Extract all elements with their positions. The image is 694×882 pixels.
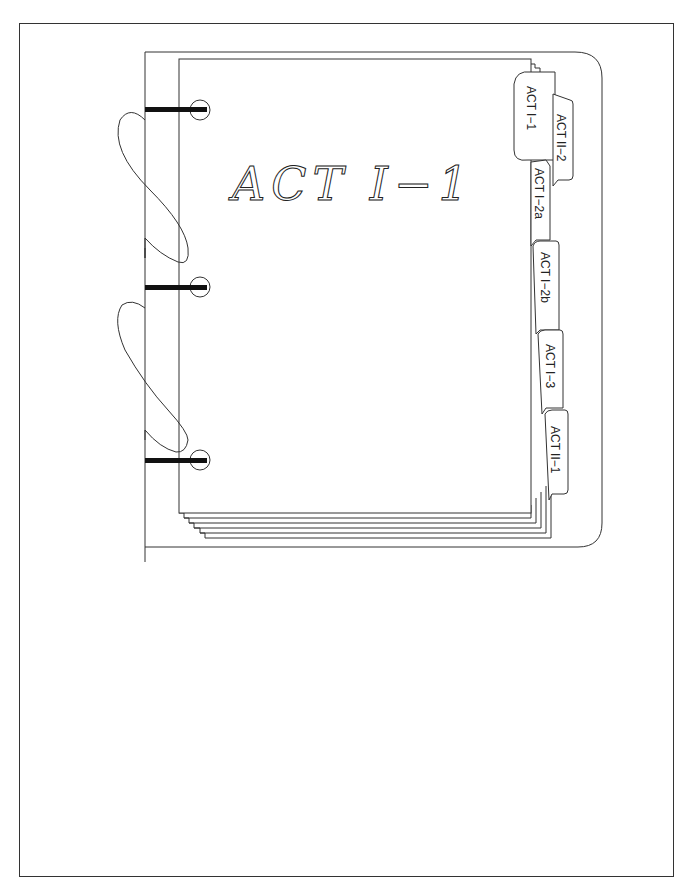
ring-bar-top bbox=[145, 107, 207, 112]
tab-label-act-ii-2: ACT II−2 bbox=[554, 114, 568, 162]
binder-diagram: ACT I−1 ACT I−1 ACT II−2 ACT I−2a ACT I−… bbox=[0, 0, 694, 882]
tab-label-act-i-2b: ACT I−2b bbox=[538, 252, 552, 303]
cover-page bbox=[179, 59, 531, 513]
tab-label-act-i-3: ACT I−3 bbox=[543, 344, 557, 388]
tab-label-act-i-2a: ACT I−2a bbox=[532, 168, 546, 219]
tab-label-act-i-1: ACT I−1 bbox=[524, 86, 538, 130]
ring-bar-middle bbox=[145, 285, 207, 290]
ring-bar-bottom bbox=[145, 458, 207, 463]
ring-loop-top bbox=[118, 113, 188, 263]
cover-title: ACT I−1 bbox=[228, 157, 474, 211]
ring-loop-middle bbox=[118, 302, 188, 452]
tab-label-act-ii-1: ACT II−1 bbox=[548, 426, 562, 474]
